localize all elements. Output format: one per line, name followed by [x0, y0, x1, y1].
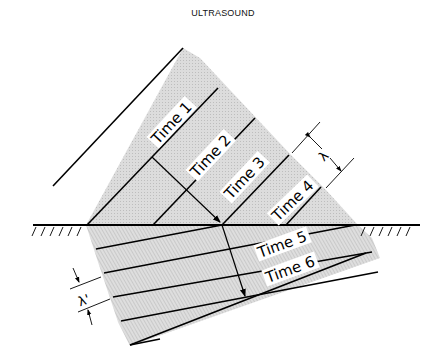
surface-hatch-left: [32, 227, 81, 236]
ultrasound-refraction-diagram: λ λ' Time 1 Time 2 Time 3 Time 4 Time 5 …: [0, 0, 446, 362]
lambda-label: λ: [316, 148, 332, 164]
lambda-prime-label: λ': [76, 291, 92, 309]
